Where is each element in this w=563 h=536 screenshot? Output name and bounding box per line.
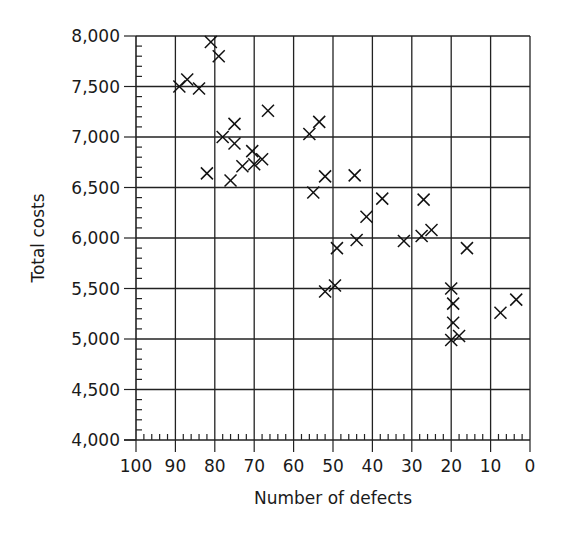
data-point (303, 128, 315, 140)
x-tick-label: 80 (204, 456, 226, 476)
scatter-chart: 1009080706050403020100 4,0004,5005,0005,… (0, 0, 563, 536)
x-axis-title: Number of defects (254, 488, 412, 508)
x-tick-label: 50 (322, 456, 344, 476)
x-tick-label: 30 (401, 456, 423, 476)
x-tick-label: 0 (525, 456, 536, 476)
x-tick-label: 20 (440, 456, 462, 476)
x-tick-label: 40 (362, 456, 384, 476)
y-tick-label: 7,500 (71, 77, 120, 97)
data-point (229, 118, 241, 130)
data-point (201, 167, 213, 179)
data-point (360, 211, 372, 223)
data-point (349, 169, 361, 181)
x-tick-label: 100 (120, 456, 152, 476)
y-tick-label: 6,000 (71, 228, 120, 248)
y-tick-label: 5,500 (71, 279, 120, 299)
x-tick-labels: 1009080706050403020100 (120, 456, 536, 476)
x-tick-label: 10 (480, 456, 502, 476)
data-point (181, 73, 193, 85)
data-point (494, 307, 506, 319)
data-point (307, 187, 319, 199)
data-point (351, 234, 363, 246)
data-point (229, 138, 241, 150)
data-point (461, 242, 473, 254)
data-point (447, 298, 459, 310)
data-point (236, 160, 248, 172)
data-point (262, 105, 274, 117)
data-points (173, 36, 522, 346)
y-tick-label: 7,000 (71, 127, 120, 147)
data-point (447, 317, 459, 329)
x-tick-label: 70 (243, 456, 265, 476)
data-point (256, 153, 268, 165)
y-axis-title: Total costs (28, 193, 48, 283)
y-tick-label: 5,000 (71, 329, 120, 349)
x-tick-label: 90 (165, 456, 187, 476)
x-tick-label: 60 (283, 456, 305, 476)
y-tick-label: 8,000 (71, 26, 120, 46)
data-point (376, 193, 388, 205)
data-point (398, 235, 410, 247)
y-tick-labels: 4,0004,5005,0005,5006,0006,5007,0007,500… (71, 26, 120, 450)
y-tick-label: 4,000 (71, 430, 120, 450)
data-point (418, 194, 430, 206)
gridlines (136, 36, 530, 440)
y-tick-label: 4,500 (71, 380, 120, 400)
data-point (193, 83, 205, 95)
data-point (313, 116, 325, 128)
data-point (246, 145, 258, 157)
y-tick-label: 6,500 (71, 178, 120, 198)
data-point (319, 170, 331, 182)
data-point (510, 294, 522, 306)
data-point (225, 174, 237, 186)
